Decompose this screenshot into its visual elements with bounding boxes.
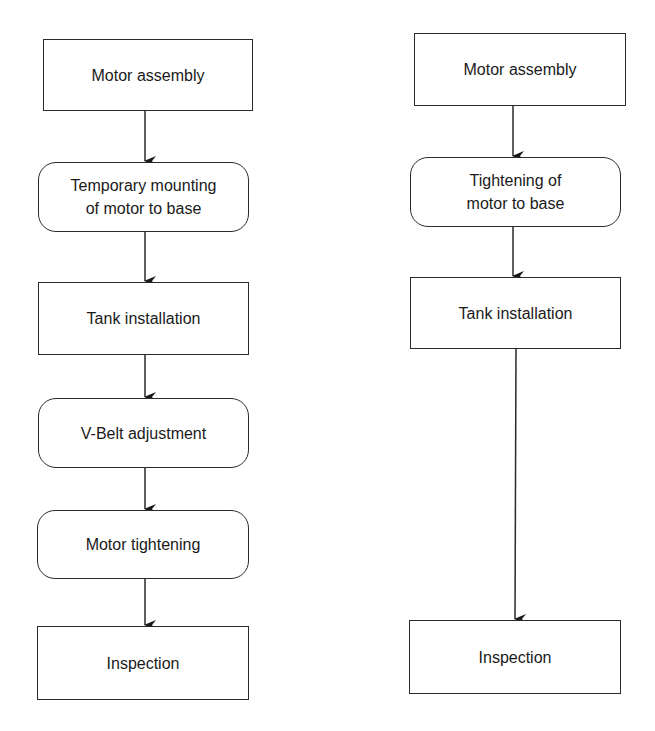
right-node-tightening-motor-to-base: Tightening of motor to base <box>410 157 621 227</box>
node-label: Motor tightening <box>86 533 201 556</box>
left-node-tank-installation: Tank installation <box>38 282 249 355</box>
node-label: Tank installation <box>459 302 573 325</box>
node-label: Inspection <box>479 646 552 669</box>
node-label: Motor assembly <box>464 58 577 81</box>
left-node-v-belt-adjustment: V-Belt adjustment <box>38 398 249 468</box>
node-label: V-Belt adjustment <box>81 422 206 445</box>
node-label: Tank installation <box>87 307 201 330</box>
right-node-tank-installation: Tank installation <box>410 277 621 349</box>
left-node-inspection: Inspection <box>37 626 249 700</box>
left-node-motor-tightening: Motor tightening <box>37 510 249 579</box>
node-label: Motor assembly <box>92 64 205 87</box>
node-label: Temporary mounting of motor to base <box>71 174 217 220</box>
node-label: Inspection <box>107 652 180 675</box>
left-node-temporary-mounting: Temporary mounting of motor to base <box>38 162 249 232</box>
arrow-r3-r4 <box>515 348 516 619</box>
node-label: Tightening of motor to base <box>467 169 565 215</box>
right-node-inspection: Inspection <box>409 620 621 694</box>
right-node-motor-assembly: Motor assembly <box>414 33 626 106</box>
left-node-motor-assembly: Motor assembly <box>43 39 253 111</box>
